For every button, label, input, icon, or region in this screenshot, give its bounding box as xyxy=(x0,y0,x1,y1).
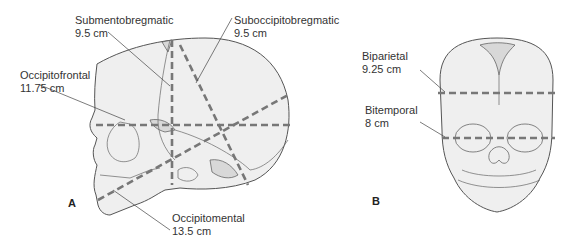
panel-a-label: A xyxy=(68,197,76,209)
submentobregmatic-label: Submentobregmatic 9.5 cm xyxy=(75,14,173,40)
panel-b-label: B xyxy=(372,195,380,207)
measurement-name: Suboccipitobregmatic xyxy=(234,14,339,27)
bitemporal-label: Bitemporal 8 cm xyxy=(365,104,418,130)
suboccipitobregmatic-label: Suboccipitobregmatic 9.5 cm xyxy=(234,14,339,40)
measurement-value: 9.5 cm xyxy=(75,27,173,40)
measurement-name: Biparietal xyxy=(362,50,408,63)
occipitofrontal-label: Occipitofrontal 11.75 cm xyxy=(20,69,90,95)
measurement-name: Occipitomental xyxy=(172,212,245,225)
measurement-value: 9.5 cm xyxy=(234,27,339,40)
measurement-name: Occipitofrontal xyxy=(20,69,90,82)
measurement-value: 13.5 cm xyxy=(172,225,245,238)
lateral-skull xyxy=(40,18,290,230)
measurement-name: Submentobregmatic xyxy=(75,14,173,27)
measurement-value: 9.25 cm xyxy=(362,63,408,76)
occipitomental-label: Occipitomental 13.5 cm xyxy=(172,212,245,238)
biparietal-label: Biparietal 9.25 cm xyxy=(362,50,408,76)
measurement-value: 8 cm xyxy=(365,117,418,130)
frontal-skull xyxy=(420,38,557,212)
measurement-value: 11.75 cm xyxy=(20,82,90,95)
measurement-name: Bitemporal xyxy=(365,104,418,117)
